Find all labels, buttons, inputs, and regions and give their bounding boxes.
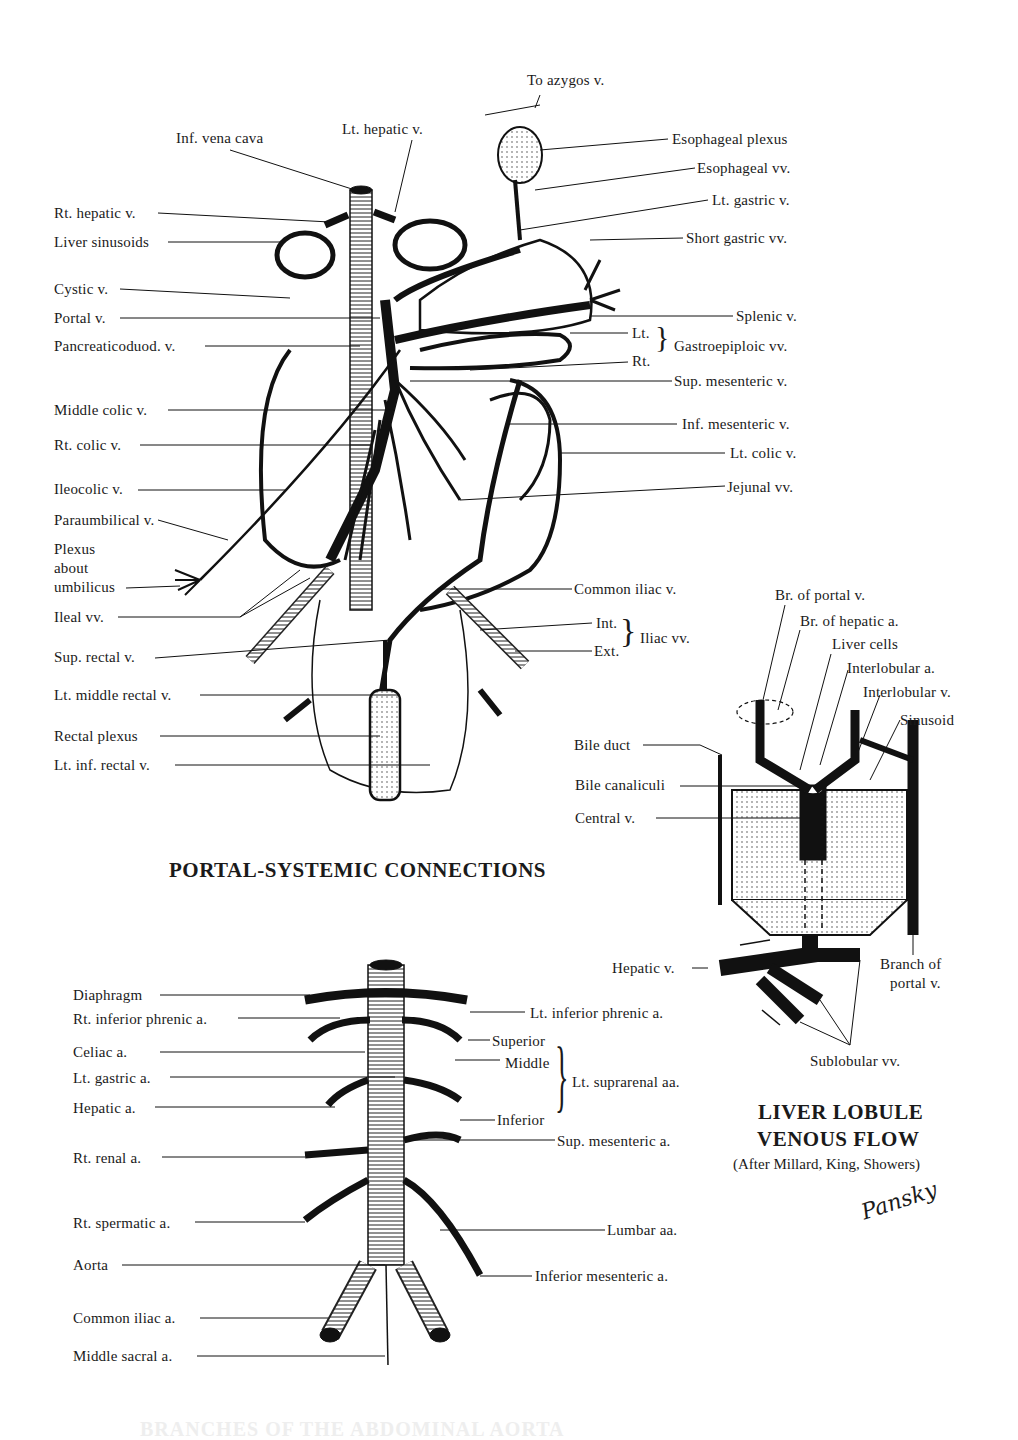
label-esophageal-plexus: Esophageal plexus	[672, 132, 787, 147]
label-hepatic-v: Hepatic v.	[612, 961, 675, 976]
label-interlobular-a: Interlobular a.	[847, 661, 935, 676]
label-common-iliac-v: Common iliac v.	[574, 582, 676, 597]
label-lt-gastric-v: Lt. gastric v.	[712, 193, 790, 208]
label-gastroepiploic-lt: Lt.	[632, 326, 650, 341]
label-branch-of: Branch of	[880, 957, 941, 972]
label-liver-sinusoids: Liver sinusoids	[54, 235, 149, 250]
label-interlobular-v: Interlobular v.	[863, 685, 951, 700]
aorta-diagram	[305, 960, 480, 1365]
label-sinusoid: Sinusoid	[900, 713, 954, 728]
label-lumbar-aa: Lumbar aa.	[607, 1223, 677, 1238]
label-lt-hepatic-v: Lt. hepatic v.	[342, 122, 423, 137]
label-iliac-ext: Ext.	[594, 644, 619, 659]
label-middle-sacral-a: Middle sacral a.	[73, 1349, 172, 1364]
aorta-leader-lines	[122, 995, 605, 1356]
label-iliac-vv: Iliac vv.	[640, 631, 690, 646]
label-rt-inferior-phrenic-a: Rt. inferior phrenic a.	[73, 1012, 207, 1027]
label-br-portal-v: Br. of portal v.	[775, 588, 865, 603]
label-suprarenal-inferior: Inferior	[497, 1113, 544, 1128]
brace: }	[620, 614, 637, 648]
label-ileal-vv: Ileal vv.	[54, 610, 104, 625]
label-rt-colic-v: Rt. colic v.	[54, 438, 121, 453]
label-splenic-v: Splenic v.	[736, 309, 797, 324]
label-rt-renal-a: Rt. renal a.	[73, 1151, 141, 1166]
label-celiac-a: Celiac a.	[73, 1045, 127, 1060]
label-short-gastric-vv: Short gastric vv.	[686, 231, 787, 246]
label-lt-inf-rectal-v: Lt. inf. rectal v.	[54, 758, 150, 773]
label-to-azygos-v: To azygos v.	[527, 73, 604, 88]
label-iliac-int: Int.	[596, 616, 617, 631]
label-plexus-line3: umbilicus	[54, 580, 115, 595]
label-bile-duct: Bile duct	[574, 738, 630, 753]
label-central-v: Central v.	[575, 811, 635, 826]
liver-lobule-credit: (After Millard, King, Showers)	[733, 1156, 920, 1173]
portal-systemic-diagram	[175, 105, 620, 800]
label-esophageal-vv: Esophageal vv.	[697, 161, 790, 176]
label-common-iliac-a: Common iliac a.	[73, 1311, 176, 1326]
cutoff-title: BRANCHES OF THE ABDOMINAL AORTA	[140, 1418, 564, 1440]
label-lt-gastric-a: Lt. gastric a.	[73, 1071, 151, 1086]
label-bile-canaliculi: Bile canaliculi	[575, 778, 665, 793]
liver-lobule-diagram	[720, 700, 913, 1025]
label-inf-vena-cava: Inf. vena cava	[176, 131, 263, 146]
label-suprarenal-middle: Middle	[505, 1056, 550, 1071]
portal-systemic-title: PORTAL-SYSTEMIC CONNECTIONS	[169, 858, 546, 883]
label-inferior-mesenteric-a: Inferior mesenteric a.	[535, 1269, 668, 1284]
label-inf-mesenteric-v: Inf. mesenteric v.	[682, 417, 790, 432]
brace: }	[655, 322, 670, 352]
label-aorta: Aorta	[73, 1258, 108, 1273]
label-middle-colic-v: Middle colic v.	[54, 403, 147, 418]
label-br-hepatic-a: Br. of hepatic a.	[800, 614, 899, 629]
label-gastroepiploic-vv: Gastroepiploic vv.	[674, 339, 787, 354]
label-sublobular-vv: Sublobular vv.	[810, 1054, 900, 1069]
label-lt-suprarenal-aa: Lt. suprarenal aa.	[572, 1075, 680, 1090]
label-pancreaticoduod-v: Pancreaticoduod. v.	[54, 339, 176, 354]
brace: }	[555, 1035, 569, 1115]
liver-lobule-title-line1: LIVER LOBULE	[758, 1100, 923, 1125]
label-hepatic-a: Hepatic a.	[73, 1101, 136, 1116]
label-suprarenal-superior: Superior	[492, 1034, 545, 1049]
label-jejunal-vv: Jejunal vv.	[727, 480, 793, 495]
label-cystic-v: Cystic v.	[54, 282, 108, 297]
label-lt-inferior-phrenic-a: Lt. inferior phrenic a.	[530, 1006, 663, 1021]
label-sup-mesenteric-v: Sup. mesenteric v.	[674, 374, 787, 389]
label-portal-v: Portal v.	[54, 311, 106, 326]
label-sup-rectal-v: Sup. rectal v.	[54, 650, 135, 665]
portal-leader-lines	[118, 95, 733, 765]
label-gastroepiploic-rt: Rt.	[632, 354, 651, 369]
label-sup-mesenteric-a: Sup. mesenteric a.	[557, 1134, 671, 1149]
label-rt-spermatic-a: Rt. spermatic a.	[73, 1216, 170, 1231]
label-diaphragm: Diaphragm	[73, 988, 142, 1003]
label-rectal-plexus: Rectal plexus	[54, 729, 138, 744]
label-plexus-line2: about	[54, 561, 88, 576]
label-portal-v-2: portal v.	[890, 976, 941, 991]
label-lt-colic-v: Lt. colic v.	[730, 446, 796, 461]
label-ileocolic-v: Ileocolic v.	[54, 482, 123, 497]
liver-lobule-title-line2: VENOUS FLOW	[757, 1127, 919, 1152]
label-lt-middle-rectal-v: Lt. middle rectal v.	[54, 688, 172, 703]
label-paraumbilical-v: Paraumbilical v.	[54, 513, 155, 528]
label-liver-cells: Liver cells	[832, 637, 898, 652]
label-rt-hepatic-v: Rt. hepatic v.	[54, 206, 136, 221]
label-plexus-line1: Plexus	[54, 542, 95, 557]
